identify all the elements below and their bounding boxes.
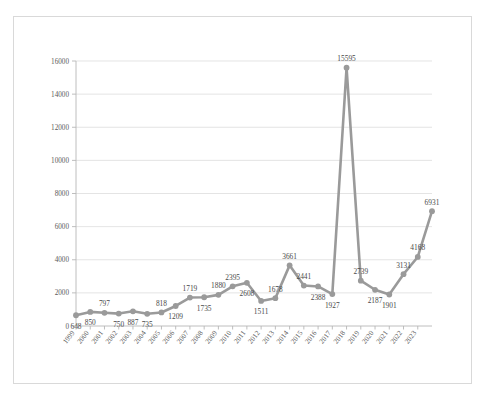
data-point-label: 2739 — [353, 267, 368, 276]
data-point-label: 1901 — [382, 301, 397, 310]
data-point-label: 2441 — [296, 272, 311, 281]
data-point-marker — [329, 291, 335, 297]
x-axis-tick-label: 2015 — [289, 329, 304, 346]
y-axis-tick-label: 2000 — [55, 289, 70, 297]
y-axis-tick-label: 0 — [65, 323, 69, 331]
y-axis-tick-label: 16000 — [51, 58, 69, 66]
x-axis-tick-label: 2021 — [375, 329, 390, 346]
data-point-marker — [301, 283, 307, 289]
data-point-label: 1719 — [183, 284, 198, 293]
data-point-marker — [102, 310, 108, 316]
x-axis-tick-label: 2010 — [218, 329, 233, 346]
data-point-marker — [173, 303, 179, 309]
data-point-marker — [201, 294, 207, 300]
data-point-marker — [73, 312, 79, 318]
data-point-label: 1927 — [325, 301, 340, 310]
x-axis-tick-label: 2016 — [304, 329, 319, 346]
chart-figure: 0200040006000800010000120001400016000648… — [13, 16, 472, 384]
data-point-marker — [386, 292, 392, 298]
x-axis-tick-label: 2020 — [360, 329, 375, 346]
data-point-label: 2608 — [239, 289, 254, 298]
data-point-marker — [401, 271, 407, 277]
data-point-marker — [429, 208, 435, 214]
data-point-label: 887 — [127, 318, 138, 327]
series-line — [76, 68, 432, 316]
data-point-marker — [315, 284, 321, 290]
data-point-marker — [144, 311, 150, 317]
data-point-marker — [344, 65, 350, 71]
y-axis-tick-label: 12000 — [51, 124, 69, 132]
data-point-label: 1209 — [168, 312, 183, 321]
x-axis-tick-label: 1999 — [61, 329, 76, 346]
data-point-label: 1735 — [197, 304, 212, 313]
y-axis-tick-label: 6000 — [55, 223, 70, 231]
data-point-label: 797 — [99, 299, 110, 308]
x-axis-tick-label: 2005 — [147, 329, 162, 346]
data-point-marker — [372, 287, 378, 293]
x-axis-tick-label: 2019 — [346, 329, 361, 346]
data-point-label: 2395 — [225, 273, 240, 282]
data-point-marker — [272, 295, 278, 301]
data-point-label: 15595 — [337, 54, 356, 63]
data-point-marker — [244, 280, 250, 286]
x-axis-tick-label: 2012 — [247, 329, 262, 346]
y-axis-tick-label: 8000 — [55, 190, 70, 198]
x-axis-tick-label: 2022 — [389, 329, 404, 346]
data-point-marker — [130, 308, 136, 314]
data-point-label: 2187 — [368, 296, 383, 305]
x-axis-tick-label: 2000 — [76, 329, 91, 346]
y-axis-tick-label: 10000 — [51, 157, 69, 165]
x-axis-tick-label: 2002 — [104, 329, 119, 346]
data-point-marker — [230, 283, 236, 289]
y-axis-tick-label: 14000 — [51, 91, 69, 99]
x-axis-tick-label: 2017 — [318, 329, 333, 346]
x-axis-tick-label: 2009 — [204, 329, 219, 346]
data-point-label: 1678 — [268, 285, 283, 294]
data-point-label: 6931 — [425, 198, 440, 207]
x-axis-tick-label: 2007 — [175, 329, 190, 346]
data-point-marker — [258, 298, 264, 304]
x-axis-tick-label: 2014 — [275, 329, 290, 346]
x-axis-tick-label: 2003 — [118, 329, 133, 346]
x-axis-tick-label: 2011 — [232, 329, 247, 345]
data-point-marker — [187, 295, 193, 301]
data-point-label: 4168 — [410, 243, 425, 252]
x-axis-tick-label: 2023 — [403, 329, 418, 346]
data-point-marker — [358, 278, 364, 284]
data-point-label: 1511 — [254, 307, 269, 316]
data-point-label: 3131 — [396, 261, 411, 270]
data-point-marker — [287, 262, 293, 268]
data-point-label: 818 — [156, 299, 167, 308]
x-axis-tick-label: 2006 — [161, 329, 176, 346]
x-axis-tick-label: 2008 — [190, 329, 205, 346]
x-axis-tick-label: 2001 — [90, 329, 105, 346]
data-point-marker — [87, 309, 93, 315]
x-axis-tick-label: 2018 — [332, 329, 347, 346]
data-point-label: 3661 — [282, 252, 297, 261]
data-point-label: 1880 — [211, 281, 226, 290]
data-point-marker — [116, 311, 122, 317]
x-axis-tick-label: 2013 — [261, 329, 276, 346]
y-axis-tick-label: 4000 — [55, 256, 70, 264]
line-chart: 0200040006000800010000120001400016000648… — [14, 17, 471, 383]
data-point-label: 2388 — [311, 293, 326, 302]
data-point-marker — [159, 310, 165, 316]
data-point-marker — [216, 292, 222, 298]
data-point-marker — [415, 254, 421, 260]
x-axis-tick-label: 2004 — [133, 329, 148, 346]
